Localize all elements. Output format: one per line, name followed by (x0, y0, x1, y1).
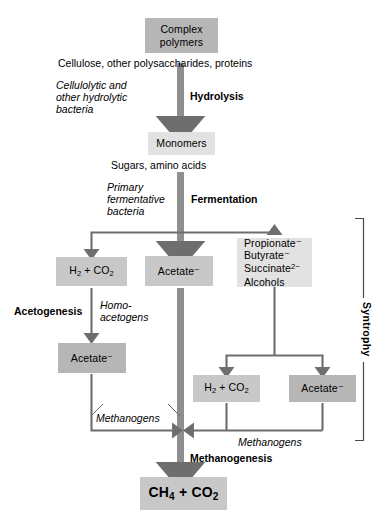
caption-fermentative-organisms-line3: bacteria (107, 205, 144, 218)
caption-homoacetogens-line2: acetogens (100, 311, 148, 324)
box-complex-polymers: Complex polymers (145, 18, 218, 53)
caption-methanogens-right: Methanogens (238, 436, 302, 449)
caption-homoacetogens-line1: Homo- (100, 299, 132, 312)
box-organic-acids-line3: Succinate2− (244, 262, 300, 277)
arrow-syntrophic-split (227, 287, 323, 370)
caption-hydrolytic-organisms-line1: Cellulolytic and (56, 79, 127, 92)
caption-substrates-polymers: Cellulose, other polysaccharides, protei… (58, 57, 252, 70)
anaerobic-degradation-diagram: Complex polymers Monomers H2 + CO2 Aceta… (0, 0, 386, 519)
caption-hydrolytic-organisms-line3: bacteria (56, 103, 93, 116)
box-h2-co2-bottom-line1: H2 + CO2 (204, 381, 249, 396)
caption-process-hydrolysis: Hydrolysis (190, 90, 244, 103)
caption-process-methanogenesis: Methanogenesis (190, 452, 272, 465)
box-acetate-mid: Acetate⁻ (145, 256, 213, 286)
box-h2-co2-top: H2 + CO2 (56, 257, 127, 286)
box-acetate-bottom: Acetate⁻ (289, 375, 356, 402)
box-h2-co2-top-line1: H2 + CO2 (69, 264, 114, 279)
box-complex-polymers-line2: polymers (160, 36, 203, 49)
box-acetate-acetogenesis-line1: Acetate⁻ (71, 352, 113, 365)
arrow-methanogens-right (191, 403, 323, 431)
box-complex-polymers-line1: Complex (160, 23, 202, 36)
box-organic-acids-line2: Butyrate⁻ (244, 249, 290, 262)
box-organic-acids: Propionate⁻ Butyrate⁻ Succinate2− Alcoho… (237, 238, 312, 287)
box-h2-co2-bottom: H2 + CO2 (193, 375, 260, 402)
box-organic-acids-line1: Propionate⁻ (244, 237, 302, 250)
box-monomers: Monomers (148, 132, 215, 155)
box-monomers-line1: Monomers (156, 137, 206, 150)
box-acetate-mid-line1: Acetate⁻ (158, 265, 200, 278)
box-methane: CH4 + CO2 (140, 477, 227, 510)
label-syntrophy: Syntrophy (361, 302, 373, 357)
caption-process-fermentation: Fermentation (191, 193, 258, 206)
caption-hydrolytic-organisms-line2: other hydrolytic (56, 91, 127, 104)
caption-substrates-monomers: Sugars, amino acids (111, 159, 206, 172)
caption-process-acetogenesis: Acetogenesis (14, 305, 82, 318)
box-methane-line1: CH4 + CO2 (148, 486, 218, 501)
box-acetate-bottom-line1: Acetate⁻ (301, 382, 343, 395)
box-acetate-acetogenesis: Acetate⁻ (58, 343, 126, 373)
caption-methanogens-left: Methanogens (96, 412, 160, 425)
caption-fermentative-organisms-line1: Primary (107, 181, 143, 194)
caption-fermentative-organisms-line2: fermentative (107, 193, 165, 206)
box-organic-acids-line4: Alcohols (244, 276, 285, 289)
